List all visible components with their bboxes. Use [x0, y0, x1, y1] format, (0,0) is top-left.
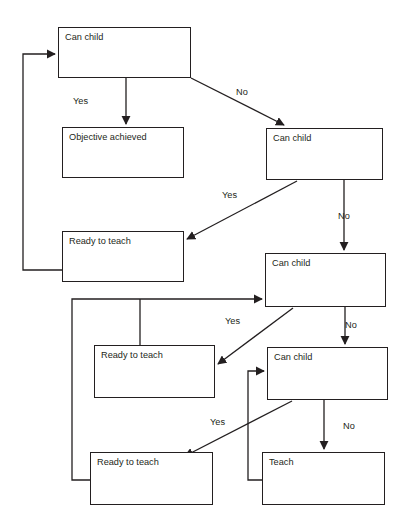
- node-label: Can child: [273, 132, 311, 144]
- node-can-child-1[interactable]: Can child: [58, 27, 191, 78]
- edge-label-yes-1: Yes: [73, 96, 88, 107]
- node-teach[interactable]: Teach: [262, 452, 385, 505]
- flowchart-canvas: Can child Objective achieved Can child R…: [0, 0, 409, 529]
- node-label: Can child: [272, 257, 310, 269]
- node-label: Can child: [274, 351, 312, 363]
- node-label: Teach: [269, 456, 294, 468]
- node-objective-achieved[interactable]: Objective achieved: [62, 127, 184, 178]
- edge-canchild4-yes-ready3: [185, 401, 292, 456]
- edge-label-no-4: No: [343, 421, 355, 432]
- node-ready-to-teach-3[interactable]: Ready to teach: [90, 452, 213, 505]
- node-label: Ready to teach: [101, 349, 163, 361]
- node-label: Can child: [65, 31, 103, 43]
- node-can-child-2[interactable]: Can child: [266, 128, 383, 180]
- node-can-child-3[interactable]: Can child: [265, 253, 386, 307]
- node-label: Ready to teach: [97, 456, 159, 468]
- node-label: Ready to teach: [69, 235, 131, 247]
- node-ready-to-teach-2[interactable]: Ready to teach: [94, 345, 215, 398]
- edge-canchild2-yes-ready1: [187, 181, 297, 239]
- node-label: Objective achieved: [69, 131, 147, 143]
- edge-label-no-1: No: [236, 87, 248, 98]
- edge-ready1-feedback-canchild1: [23, 54, 62, 270]
- edge-label-no-3: No: [345, 320, 357, 331]
- edge-label-yes-3: Yes: [225, 316, 240, 327]
- node-can-child-4[interactable]: Can child: [267, 347, 388, 400]
- edge-canchild1-no-canchild2: [191, 78, 284, 125]
- edge-label-yes-4: Yes: [210, 417, 225, 428]
- edge-label-no-2: No: [338, 211, 350, 222]
- node-ready-to-teach-1[interactable]: Ready to teach: [62, 231, 184, 282]
- edge-label-yes-2: Yes: [222, 190, 237, 201]
